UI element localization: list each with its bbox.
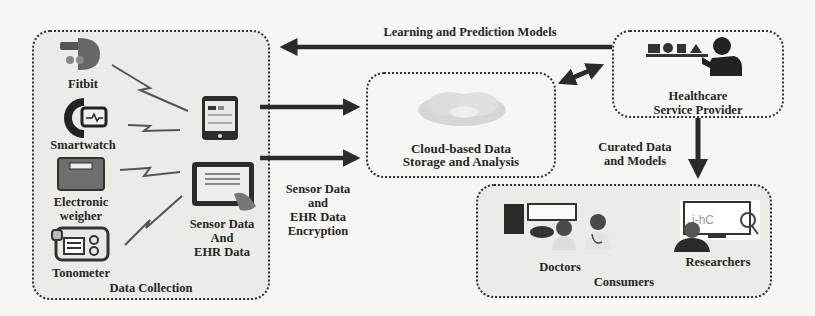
flow-arrows: [0, 0, 815, 316]
cloud-provider-bidirectional-arrow: [562, 66, 600, 82]
